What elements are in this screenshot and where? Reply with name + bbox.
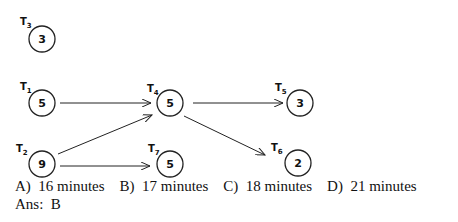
node-label: T3 <box>20 16 32 30</box>
node-value: 3 <box>296 97 304 110</box>
option-b: B) 17 minutes <box>120 178 209 195</box>
node-t5: T5 3 <box>275 82 313 116</box>
node-value: 5 <box>166 158 174 171</box>
node-value: 5 <box>166 97 174 110</box>
node-value: 3 <box>38 33 46 46</box>
node-label: T4 <box>147 83 159 97</box>
node-label: T5 <box>275 82 287 96</box>
node-t1: T1 5 <box>20 81 55 116</box>
node-value: 5 <box>38 97 46 110</box>
node-t2: T2 9 <box>16 143 55 177</box>
node-label: T7 <box>148 143 160 157</box>
option-d: D) 21 minutes <box>327 178 417 195</box>
node-value: 2 <box>294 157 302 170</box>
edge-t4-t6 <box>184 116 265 155</box>
answer-options: A) 16 minutes B) 17 minutes C) 18 minute… <box>15 178 417 195</box>
option-a: A) 16 minutes <box>15 178 105 195</box>
answer-line: Ans: B <box>15 196 61 213</box>
answer-value: B <box>51 196 61 212</box>
node-label: T6 <box>271 142 283 156</box>
node-label: T2 <box>16 143 28 157</box>
node-t4: T4 5 <box>147 83 183 116</box>
edge-t2-t4 <box>58 115 152 154</box>
node-t7: T7 5 <box>148 143 183 177</box>
option-c: C) 18 minutes <box>223 178 312 195</box>
node-t6: T6 2 <box>271 142 311 176</box>
node-t3: T3 3 <box>20 16 55 52</box>
node-label: T1 <box>20 81 32 95</box>
node-value: 9 <box>38 158 46 171</box>
answer-label: Ans: <box>15 196 43 212</box>
